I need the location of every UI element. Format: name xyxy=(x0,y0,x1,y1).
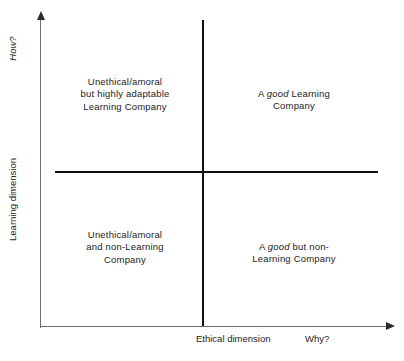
quadrant-bottom-left-line-3: Company xyxy=(60,254,190,266)
quadrant-bottom-right: A good but non- Learning Company xyxy=(228,241,360,266)
quadrant-top-right-line-2: Company xyxy=(230,100,358,112)
x-axis-line xyxy=(40,326,390,327)
x-axis-title: Ethical dimension xyxy=(196,333,270,344)
quadrant-bottom-left: Unethical/amoral and non-Learning Compan… xyxy=(60,229,190,266)
y-axis-title: Learning dimension xyxy=(7,150,18,250)
quadrant-bottom-right-line-1: A good but non- xyxy=(228,241,360,253)
arrow-up-icon xyxy=(37,11,45,20)
quadrant-bottom-right-line-2: Learning Company xyxy=(228,253,360,265)
y-axis-line xyxy=(40,18,41,328)
x-axis-question: Why? xyxy=(305,333,329,344)
quadrant-top-right: A good Learning Company xyxy=(230,88,358,113)
vertical-divider xyxy=(202,20,204,326)
horizontal-divider xyxy=(55,171,378,173)
quadrant-diagram: Unethical/amoral but highly adaptable Le… xyxy=(0,0,404,361)
quadrant-bottom-left-line-2: and non-Learning xyxy=(60,241,190,253)
quadrant-top-left-line-3: Learning Company xyxy=(60,101,190,113)
quadrant-top-left-line-2: but highly adaptable xyxy=(60,88,190,100)
quadrant-top-right-line-1: A good Learning xyxy=(230,88,358,100)
arrow-right-icon xyxy=(386,322,395,330)
quadrant-top-left: Unethical/amoral but highly adaptable Le… xyxy=(60,76,190,113)
y-axis-question: How? xyxy=(7,24,18,74)
quadrant-bottom-left-line-1: Unethical/amoral xyxy=(60,229,190,241)
quadrant-top-left-line-1: Unethical/amoral xyxy=(60,76,190,88)
